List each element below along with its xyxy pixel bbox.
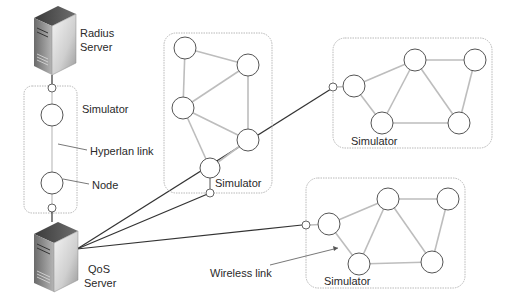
hyperlan-link-label: Hyperlan link [90,145,154,157]
port-node [302,221,310,229]
hyperlan-arrow [58,144,87,150]
network-diagram: Radius Server Simulator Hyperlan link No… [0,0,520,306]
node[interactable] [377,188,399,210]
node[interactable] [421,251,443,273]
node[interactable] [343,75,365,97]
top-right-simulator[interactable]: Simulator [329,38,492,148]
port-node [48,84,56,92]
port-node [329,83,337,91]
middle-simulator-label: Simulator [215,177,262,189]
left-simulator-label: Simulator [82,103,129,115]
node[interactable] [41,172,63,194]
node[interactable] [464,49,486,71]
node[interactable] [348,253,370,275]
node[interactable] [172,97,194,119]
node[interactable] [448,112,470,134]
node[interactable] [41,104,63,126]
node[interactable] [404,49,426,71]
uplink-bottom-right-simulator [77,225,302,249]
port-node [48,204,56,212]
bottom-right-simulator-label: Simulator [324,275,371,287]
bottom-right-simulator[interactable]: Simulator [302,178,465,288]
radius-server-label: Radius [80,27,115,39]
radius-server-label: Server [80,41,113,53]
qos-server-label: QoS [88,263,110,275]
node[interactable] [318,213,340,235]
middle-simulator[interactable]: Simulator [164,33,272,197]
node-label: Node [92,179,118,191]
qos-server-label: Server [84,277,117,289]
wireless-link-label: Wireless link [210,267,272,279]
top-right-simulator-label: Simulator [351,135,398,147]
node[interactable] [200,158,220,178]
left-simulator[interactable] [24,84,77,213]
qos-server-icon[interactable] [34,222,78,292]
wireless-link-arrow [270,248,338,265]
radius-server-icon[interactable] [34,6,76,75]
node[interactable] [371,112,393,134]
uplink-middle-simulator [77,193,210,249]
arrowhead-icon [333,246,338,251]
node[interactable] [237,129,259,151]
node-arrow [63,179,89,184]
node[interactable] [174,37,196,59]
node[interactable] [237,54,259,76]
port-node [206,189,214,197]
node[interactable] [437,188,459,210]
